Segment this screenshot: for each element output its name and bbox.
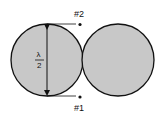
fraction-numerator: λ [37,50,41,59]
point-2-dot [78,23,81,26]
point-1-dot [78,95,81,98]
right-lobe [82,24,154,96]
point-2-label: #2 [74,9,84,19]
point-1-label: #1 [74,103,84,113]
dipole-pattern-diagram: #2 #1 λ 2 [0,0,161,119]
fraction-denominator: 2 [37,61,42,70]
